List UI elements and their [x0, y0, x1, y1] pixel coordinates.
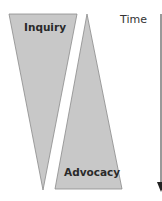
advocacy-label: Advocacy — [64, 166, 120, 178]
down-arrow-icon — [157, 182, 162, 192]
inquiry-advocacy-diagram: Inquiry Advocacy Time — [0, 0, 162, 201]
time-axis-label: Time — [119, 13, 147, 26]
inquiry-label: Inquiry — [24, 21, 66, 33]
